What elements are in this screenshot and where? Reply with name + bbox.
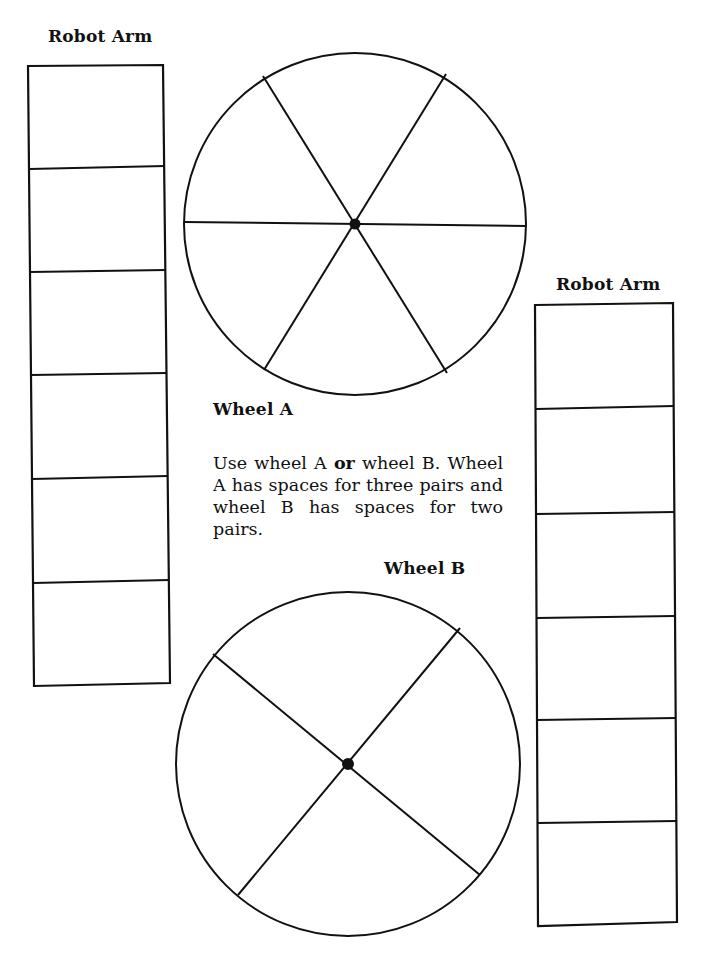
- instructions-part1: Use wheel A: [213, 453, 334, 473]
- wheel-a: [184, 53, 526, 395]
- robot-arm-left-box: [28, 65, 170, 686]
- wheel-b: [176, 592, 520, 936]
- wheel-a-label: Wheel A: [213, 399, 293, 419]
- robot-arm-left-divider-1: [29, 166, 165, 169]
- instructions-text: Use wheel A or wheel B. Wheel A has spac…: [213, 452, 503, 540]
- wheel-a-hub: [351, 220, 360, 229]
- instructions-emphasis: or: [334, 453, 355, 473]
- robot-arm-right-label: Robot Arm: [556, 274, 660, 294]
- robot-arm-left-label: Robot Arm: [48, 26, 152, 46]
- wheel-b-label: Wheel B: [384, 558, 465, 578]
- wheel-b-hub: [343, 759, 353, 769]
- robot-arm-right-box: [535, 303, 677, 926]
